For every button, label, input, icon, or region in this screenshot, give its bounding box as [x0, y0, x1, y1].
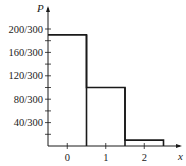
- y-tick-label: 160/300: [9, 47, 43, 58]
- x-axis-arrow-icon: [176, 144, 182, 148]
- y-tick-label: 80/300: [14, 94, 43, 105]
- x-tick-label: 1: [103, 152, 108, 163]
- probability-histogram: 40/30080/300120/300160/300200/300 012 P …: [0, 0, 186, 166]
- x-axis-label: x: [177, 150, 183, 162]
- y-tick-label: 120/300: [9, 70, 43, 81]
- x-tick-label: 2: [142, 152, 147, 163]
- x-tick-label: 0: [65, 152, 70, 163]
- y-axis-label: P: [36, 2, 44, 14]
- y-axis: 40/30080/300120/300160/300200/300: [9, 6, 51, 146]
- x-axis: 012: [48, 143, 182, 163]
- histogram-outline: [48, 35, 164, 146]
- y-tick-label: 40/300: [14, 117, 43, 128]
- y-axis-arrow-icon: [46, 6, 50, 12]
- bars: [48, 35, 164, 146]
- y-tick-label: 200/300: [9, 24, 43, 35]
